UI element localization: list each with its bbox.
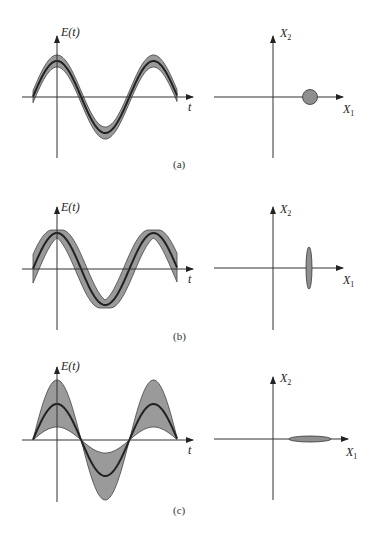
x2-axis-label: X2 — [279, 202, 291, 218]
panel-label-a: (a) — [173, 158, 186, 171]
e-axis-label: E(t) — [60, 359, 80, 373]
t-axis-label: t — [188, 443, 192, 457]
panel-a: E(t) t X2 X1 (a) — [22, 25, 354, 171]
panel-label-b: (b) — [173, 330, 186, 343]
time-plot-b: E(t) t — [22, 200, 193, 330]
figure-canvas: E(t) t X2 X1 (a) E(t) t X2 X1 (b) — [0, 0, 373, 537]
x1-axis-label: X1 — [342, 102, 354, 118]
uncertainty-ellipse-horizontal — [289, 436, 331, 442]
x2-axis-label: X2 — [279, 371, 291, 387]
uncertainty-ellipse-vertical — [306, 247, 312, 289]
x1-axis-label: X1 — [342, 273, 354, 289]
phase-plot-c: X2 X1 — [214, 371, 357, 500]
e-axis-label: E(t) — [60, 200, 80, 214]
t-axis-label: t — [188, 100, 192, 114]
t-axis-label: t — [188, 272, 192, 286]
x1-axis-label: X1 — [345, 445, 357, 461]
panel-label-c: (c) — [173, 504, 186, 517]
time-plot-c: E(t) t — [22, 359, 193, 502]
panel-c: E(t) t X2 X1 (c) — [22, 359, 357, 517]
time-plot-a: E(t) t — [22, 25, 193, 158]
phase-plot-b: X2 X1 — [214, 202, 354, 330]
uncertainty-circle — [303, 90, 318, 105]
e-axis-label: E(t) — [60, 25, 80, 39]
phase-plot-a: X2 X1 — [214, 26, 354, 158]
x2-axis-label: X2 — [279, 26, 291, 42]
panel-b: E(t) t X2 X1 (b) — [22, 200, 354, 343]
